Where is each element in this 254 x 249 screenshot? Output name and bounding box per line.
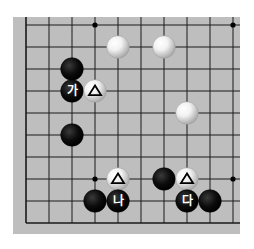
white-stone-icon [176,168,199,191]
black-stone: 다 [176,190,199,213]
star-point-icon [92,176,97,181]
black-stone-icon [84,190,107,213]
black-stone [199,190,222,213]
go-board-diagram: 가나다 [0,0,254,249]
star-point-icon [92,22,97,27]
star-point-icon [230,176,235,181]
white-stone-icon [107,168,130,191]
black-stone [61,58,84,81]
white-stone-icon [153,36,176,59]
white-stone-icon [84,80,107,103]
black-stone-icon [199,190,222,213]
black-stone [61,124,84,147]
white-stone-icon [176,102,199,125]
black-stone: 나 [107,190,130,213]
stone-label: 다 [182,193,193,208]
black-stone [153,168,176,191]
black-stone-icon [153,168,176,191]
stone-label: 나 [113,193,124,208]
black-stone-icon [61,124,84,147]
white-stone [107,168,130,191]
black-stone: 가 [61,80,84,103]
black-stone-icon [61,58,84,81]
white-stone [107,36,130,59]
black-stone [84,190,107,213]
white-stone [176,102,199,125]
stone-label: 가 [67,83,78,98]
white-stone-icon [107,36,130,59]
white-stone [84,80,107,103]
star-point-icon [230,22,235,27]
white-stone [176,168,199,191]
white-stone [153,36,176,59]
